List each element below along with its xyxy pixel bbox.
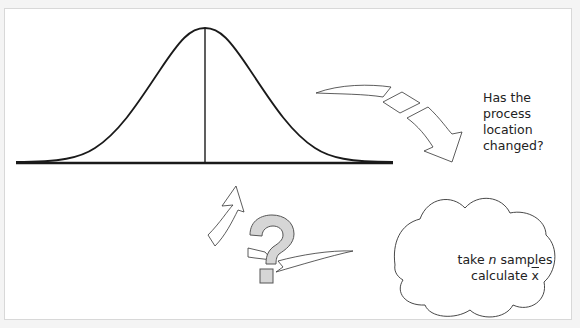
text: calculate (471, 268, 532, 283)
text: take (458, 252, 489, 267)
cloud-line-1: take n samples (445, 252, 565, 268)
question-line: location (483, 122, 573, 138)
variable-x-bar: x (532, 268, 539, 283)
question-line: process (483, 106, 573, 122)
question-line: changed? (483, 138, 573, 154)
question-line: Has the (483, 90, 573, 106)
text: samples (497, 252, 553, 267)
cloud-text: take n samples calculate x (445, 252, 565, 284)
arrow-to-cloud (316, 85, 462, 162)
question-text: Has the process location changed? (483, 90, 573, 154)
question-mark-icon (250, 215, 294, 283)
variable-n: n (489, 252, 497, 267)
cloud-line-2: calculate x (445, 268, 565, 284)
